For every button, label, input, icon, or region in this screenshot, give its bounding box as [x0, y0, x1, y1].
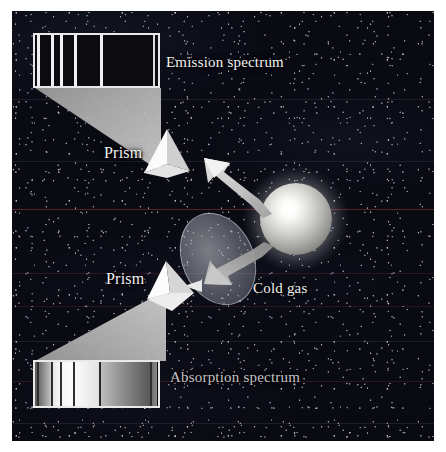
scan-line [12, 161, 434, 162]
scan-line [12, 423, 434, 424]
spectrum-gap [40, 35, 51, 86]
scan-line [12, 99, 434, 100]
emission-spectrum-box [33, 33, 160, 88]
spectrum-diagram: Emission spectrum Absorption spectrum Pr… [0, 0, 446, 452]
scan-line [12, 341, 434, 342]
continuum-segment [152, 362, 157, 406]
label-emission-spectrum: Emission spectrum [166, 54, 284, 71]
label-absorption-spectrum: Absorption spectrum [170, 369, 300, 386]
spectrum-gap [103, 35, 153, 86]
continuum-segment [101, 362, 150, 406]
absorption-spectrum-box [33, 360, 160, 408]
continuum-segment [75, 362, 99, 406]
spectrum-gap [155, 35, 158, 86]
label-prism-bottom: Prism [106, 270, 144, 288]
spectrum-gap [63, 35, 74, 86]
star [260, 183, 332, 255]
continuum-segment [62, 362, 73, 406]
continuum-segment [39, 362, 51, 406]
scan-line [12, 209, 434, 210]
label-cold-gas: Cold gas [253, 280, 308, 297]
spectrum-gap [77, 35, 100, 86]
continuum-segment [53, 362, 60, 406]
label-prism-top: Prism [104, 144, 142, 162]
scan-line [12, 306, 434, 307]
